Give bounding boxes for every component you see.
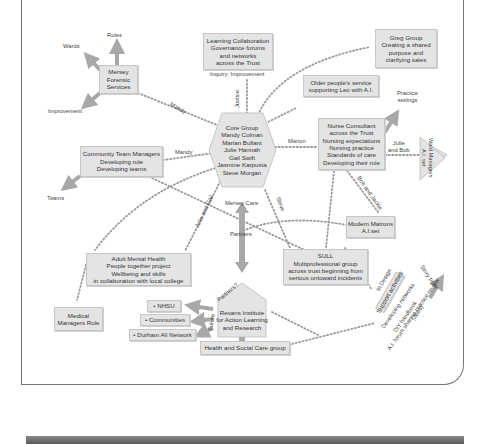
node-text: Older people's service — [310, 79, 371, 86]
roles-label: Roles — [107, 32, 122, 39]
nhsu-node[interactable]: • NHSU — [147, 300, 181, 312]
revans-institute-node[interactable]: Revans Institute for Action Learning and… — [218, 305, 266, 335]
practice-settings-label: Practice settings — [397, 90, 418, 104]
node-text: Medical — [68, 312, 89, 319]
node-text: Mersey — [108, 68, 128, 75]
node-text: Creating a shared — [381, 41, 430, 48]
node-text: A.I.set — [362, 227, 380, 234]
hub-line: Julie Hannah — [224, 146, 260, 153]
community-team-managers-node[interactable]: Community Team Managers Developing role … — [80, 146, 163, 177]
mandy-label-2: Mandy — [175, 149, 192, 156]
durham-network-node[interactable]: • Durham All Network — [129, 329, 196, 341]
node-text: Services — [107, 83, 131, 90]
node-text: Modern Matrons — [348, 220, 393, 227]
node-text: Greg Group — [390, 34, 423, 41]
ward-managers-label[interactable]: Ward Managers A.I. set — [420, 138, 434, 178]
hub-line: Core Group — [226, 124, 258, 131]
node-text: Developing their role — [323, 159, 380, 166]
node-text: across trust beginning from — [288, 267, 363, 274]
node-text: Wellbeing and skills — [111, 270, 165, 277]
greg-group-node[interactable]: Greg Group Creating a shared purpose and… — [375, 29, 437, 68]
label-line: Practice — [397, 90, 418, 97]
node-text: purpose and — [389, 49, 423, 56]
node-text: Nurse Consultant — [328, 122, 376, 129]
hub-line: Gail Swift — [229, 154, 255, 161]
label-line: A.I. set — [420, 138, 427, 178]
node-text: Governance forums — [211, 44, 265, 51]
node-text: across the Trust — [216, 59, 260, 66]
inquiry-label: Inquiry: Improvement — [210, 71, 264, 78]
mersey-forensic-node[interactable]: Mersey Forensic Services — [99, 65, 138, 94]
improvement-label: Improvement — [48, 108, 82, 115]
node-text: Forensic — [107, 76, 131, 83]
node-text: supporting Leo with A.I. — [309, 86, 373, 93]
teams-label: Teams — [47, 195, 64, 202]
adult-mental-health-node[interactable]: Adult Mental Health People together proj… — [86, 253, 191, 286]
modern-matrons-node[interactable]: Modern Matrons A.I.set — [346, 216, 395, 238]
node-text: SULL — [318, 252, 333, 259]
node-text: across the Trust — [329, 129, 373, 136]
older-people-node[interactable]: Older people's service supporting Leo wi… — [303, 75, 379, 97]
node-text: Developing teams — [97, 165, 147, 172]
hub-line: Steve Morgan — [223, 169, 262, 176]
nurse-consultant-node[interactable]: Nurse Consultant across the Trust Nursin… — [318, 118, 385, 170]
node-text: for Action Learning — [216, 316, 268, 323]
label-line: and Bob — [388, 147, 410, 154]
hub-line: Jasmine Karpusta — [217, 161, 267, 168]
node-text: Managers Role — [58, 319, 100, 326]
node-text: Community Team Managers — [83, 150, 160, 157]
node-text: Nursing expectations — [323, 137, 381, 144]
sull-node[interactable]: SULL Multiprofessional group across trus… — [283, 249, 368, 285]
partners-label: Partners — [230, 231, 252, 238]
node-text: Developing role — [100, 158, 143, 165]
node-text: Nursing practice — [329, 144, 374, 151]
node-text: Multiprofessional group — [294, 260, 358, 267]
node-text: Revans Institute — [220, 309, 264, 316]
node-text: clarifying sales — [386, 56, 427, 63]
node-text: Learning Collaboration — [207, 37, 269, 44]
node-text: serious untoward incidents — [289, 274, 362, 281]
label-line: Ward Managers — [427, 138, 434, 178]
node-text: in collaboration with local college — [93, 277, 183, 284]
marion-label: Marion — [288, 138, 306, 145]
node-text: Adult Mental Health — [112, 255, 166, 262]
node-text: Standards of care — [327, 151, 376, 158]
wards-label: Wards — [63, 43, 80, 50]
hub-line: Marian Bullant — [222, 139, 262, 146]
health-social-care-node[interactable]: Health and Social Care group — [200, 341, 290, 355]
label-line: settings — [397, 97, 418, 104]
medical-managers-node[interactable]: Medical Managers Role — [54, 307, 103, 331]
communities-node[interactable]: • Communities — [140, 314, 190, 326]
learning-collaboration-node[interactable]: Learning Collaboration Governance forums… — [203, 33, 273, 70]
mersey-care-label: Mersey Care — [225, 200, 258, 207]
label-line: Julie — [388, 140, 410, 147]
node-text: and networks — [220, 52, 257, 59]
hub-line: Mandy Colman — [221, 131, 263, 138]
node-text: People together project — [107, 262, 171, 269]
justice-label: Justice — [234, 90, 241, 108]
node-text: and Research — [223, 324, 262, 331]
julie-and-bob-label: Julie and Bob — [388, 140, 410, 154]
core-group-node[interactable]: Core Group Mandy Colman Marian Bullant J… — [212, 116, 272, 184]
